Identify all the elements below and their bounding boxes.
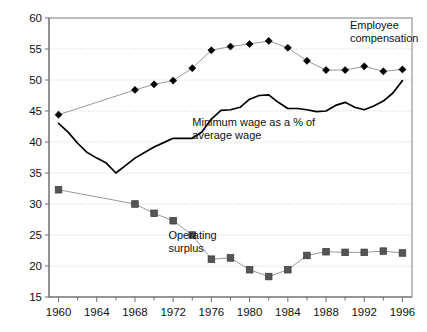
data-point-operating-1976 bbox=[208, 256, 215, 263]
y-tick-label-35: 35 bbox=[29, 167, 42, 179]
data-point-operating-1980 bbox=[246, 266, 253, 273]
x-tick-label-1968: 1968 bbox=[122, 306, 148, 318]
data-point-operating-1970 bbox=[151, 210, 158, 217]
data-point-operating-1968 bbox=[132, 201, 139, 208]
data-point-operating-1996 bbox=[399, 250, 406, 257]
x-tick-label-1980: 1980 bbox=[237, 306, 263, 318]
x-tick-label-1960: 1960 bbox=[46, 306, 72, 318]
y-tick-label-20: 20 bbox=[29, 260, 42, 272]
data-point-operating-1978 bbox=[227, 255, 234, 262]
x-tick-label-1996: 1996 bbox=[390, 306, 416, 318]
x-tick-label-1984: 1984 bbox=[275, 306, 301, 318]
chart-container: 15202530354045505560 1960196419681972197… bbox=[0, 0, 427, 332]
y-tick-label-40: 40 bbox=[29, 136, 42, 148]
data-point-operating-1994 bbox=[380, 248, 387, 255]
data-point-operating-1972 bbox=[170, 217, 177, 224]
x-tick-label-1964: 1964 bbox=[84, 306, 110, 318]
y-tick-label-50: 50 bbox=[29, 74, 42, 86]
y-tick-label-45: 45 bbox=[29, 105, 42, 117]
x-tick-label-1988: 1988 bbox=[313, 306, 339, 318]
y-tick-label-30: 30 bbox=[29, 198, 42, 210]
y-tick-label-55: 55 bbox=[29, 43, 42, 55]
x-tick-label-1972: 1972 bbox=[160, 306, 186, 318]
data-point-operating-1986 bbox=[304, 252, 311, 259]
data-point-operating-1988 bbox=[323, 248, 330, 255]
y-tick-label-25: 25 bbox=[29, 229, 42, 241]
y-tick-label-60: 60 bbox=[29, 12, 42, 24]
wage-share-line-chart: 15202530354045505560 1960196419681972197… bbox=[0, 0, 427, 332]
data-point-operating-1982 bbox=[265, 273, 272, 280]
data-point-operating-1960 bbox=[55, 186, 62, 193]
x-tick-label-1992: 1992 bbox=[351, 306, 377, 318]
data-point-operating-1984 bbox=[285, 266, 292, 273]
data-point-operating-1992 bbox=[361, 249, 368, 256]
y-tick-label-15: 15 bbox=[29, 291, 42, 303]
data-point-operating-1990 bbox=[342, 249, 349, 256]
x-tick-label-1976: 1976 bbox=[199, 306, 225, 318]
